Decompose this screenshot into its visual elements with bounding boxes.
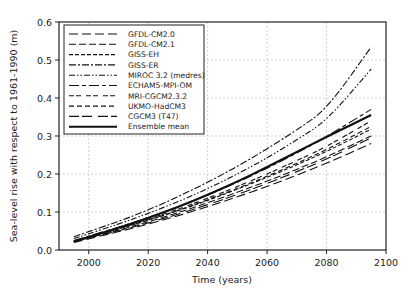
y-tick-label: 0.2 — [37, 169, 52, 180]
legend-label: UKMO-HadCM3 — [128, 102, 186, 111]
x-tick-label: 2100 — [374, 257, 398, 268]
y-tick-label: 0.1 — [37, 207, 52, 218]
y-tick-label: 0.6 — [37, 17, 52, 28]
y-axis-label: Sea-level rise with respect to 1961-1990… — [8, 30, 19, 243]
y-tick-label: 0.4 — [37, 93, 52, 104]
legend-label: GISS-EH — [128, 50, 159, 59]
y-tick-label: 0.3 — [37, 131, 52, 142]
legend: GFDL-CM2.0GFDL-CM2.1GISS-EHGISS-ERMIROC … — [64, 25, 205, 134]
x-tick-label: 2000 — [77, 257, 101, 268]
x-tick-label: 2060 — [255, 257, 279, 268]
legend-label: MIROC 3.2 (medres) — [128, 71, 205, 80]
x-axis-label: Time (years) — [191, 274, 252, 285]
legend-label: GISS-ER — [128, 61, 159, 70]
x-tick-label: 2040 — [196, 257, 220, 268]
legend-label: GFDL-CM2.0 — [128, 30, 175, 39]
legend-label: GFDL-CM2.1 — [128, 40, 175, 49]
x-axis-ticks: 200020202040206020802100 — [77, 250, 398, 268]
sea-level-chart: 200020202040206020802100 0.00.10.20.30.4… — [0, 0, 415, 295]
legend-label: CGCM3 (T47) — [128, 112, 179, 121]
legend-label: ECHAM5-MPI-OM — [128, 81, 192, 90]
x-tick-label: 2020 — [136, 257, 160, 268]
y-tick-label: 0.0 — [37, 245, 52, 256]
x-tick-label: 2080 — [314, 257, 338, 268]
legend-label: Ensemble mean — [128, 122, 189, 131]
y-tick-label: 0.5 — [37, 55, 52, 66]
legend-label: MRI-CGCM2.3.2 — [128, 92, 187, 101]
y-axis-ticks: 0.00.10.20.30.40.50.6 — [37, 17, 59, 256]
